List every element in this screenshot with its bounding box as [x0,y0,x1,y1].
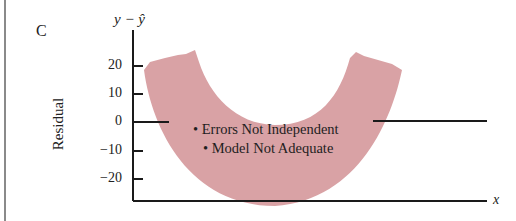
x-axis-label: x [493,192,499,208]
y-tick-label: 10 [82,85,122,101]
residual-plot [0,0,516,221]
y-tick-label: 20 [82,57,122,73]
y-tick-label: −20 [82,170,122,186]
y-tick-label: −10 [82,142,122,158]
annotation-model-not-adequate: • Model Not Adequate [203,140,333,157]
annotation-errors-not-independent: • Errors Not Independent [193,121,339,138]
y-tick-label: 0 [82,113,122,129]
